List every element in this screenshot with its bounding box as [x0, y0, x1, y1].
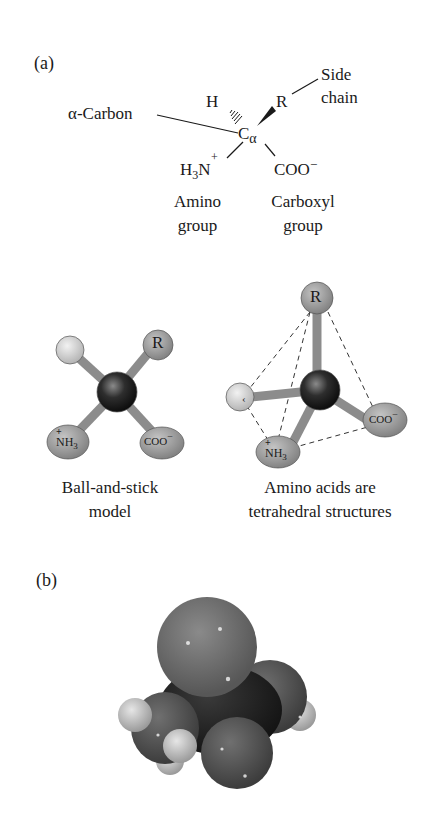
carboxyl-caption-line1: Carboxyl	[258, 192, 348, 212]
bs-nh3-label: NH3	[56, 435, 78, 450]
h-atom: H	[206, 92, 218, 112]
bs-coo-label: COO−	[144, 435, 173, 447]
amino-h: H	[180, 160, 192, 179]
solid-wedge-bond	[257, 106, 276, 126]
hashed-wedge-bond	[230, 110, 242, 124]
hydrogen-ball	[56, 336, 84, 364]
tetrahedral-caption: Amino acids are tetrahedral structures	[220, 478, 420, 522]
carbon-symbol: C	[238, 124, 249, 143]
tet-nh3-label: NH3	[265, 446, 287, 461]
side-chain-callout-line1: Side	[321, 65, 351, 85]
tet-nh3-charge: +	[265, 437, 271, 448]
sf-hydrogen-front	[163, 729, 197, 763]
alpha-carbon-atom: Cα	[238, 124, 257, 145]
bs-nh3-sub: 3	[73, 441, 78, 451]
carboxyl-caption: Carboxyl group	[258, 192, 348, 236]
tet-coo-text: COO	[369, 413, 392, 425]
panel-b-label: (b)	[36, 570, 57, 590]
amino-caption-line1: Amino	[160, 192, 235, 212]
amino-n: N	[198, 160, 210, 179]
tet-nh3-sub: 3	[282, 452, 287, 462]
carboxyl-formula: COO−	[274, 160, 317, 181]
tet-coo-charge: −	[392, 409, 398, 420]
ball-and-stick-caption: Ball-and-stick model	[30, 478, 190, 522]
side-chain-callout-line2: chain	[321, 88, 358, 108]
amino-charge: +	[211, 150, 218, 165]
sf-r-group-sphere	[157, 597, 257, 697]
alpha-carbon-callout: α-Carbon	[68, 104, 133, 124]
sf-oxygen-bottom	[201, 717, 273, 789]
space-filling-model	[110, 585, 330, 790]
alpha-subscript: α	[249, 131, 256, 146]
carboxyl-caption-line2: group	[258, 216, 348, 236]
bs-nh3-text: NH	[56, 435, 73, 449]
sf-hydrogen-left	[118, 698, 152, 732]
bs-caption-line1: Ball-and-stick	[30, 478, 190, 498]
bs-coo-text: COO	[144, 435, 167, 447]
tet-hydrogen-ball	[226, 383, 254, 411]
amino-caption: Amino group	[160, 192, 235, 236]
r-group: R	[276, 92, 287, 112]
tet-carbon-ball	[300, 370, 340, 410]
amino-caption-line2: group	[160, 216, 235, 236]
carboxyl-text: COO	[274, 160, 310, 179]
bs-r-label: R	[152, 333, 163, 353]
tet-caption-line1: Amino acids are	[220, 478, 420, 498]
bs-caption-line2: model	[30, 502, 190, 522]
carboxyl-charge: −	[310, 157, 317, 172]
tet-r-label: R	[310, 287, 321, 307]
svg-text:‹: ‹	[242, 392, 246, 404]
amino-group-formula: H3N	[180, 160, 211, 181]
bs-nh3-charge: +	[56, 426, 62, 437]
tet-nh3-text: NH	[265, 446, 282, 460]
carbon-ball	[97, 372, 137, 412]
bs-coo-charge: −	[167, 431, 173, 442]
tet-coo-label: COO−	[369, 413, 398, 425]
tet-caption-line2: tetrahedral structures	[220, 502, 420, 522]
